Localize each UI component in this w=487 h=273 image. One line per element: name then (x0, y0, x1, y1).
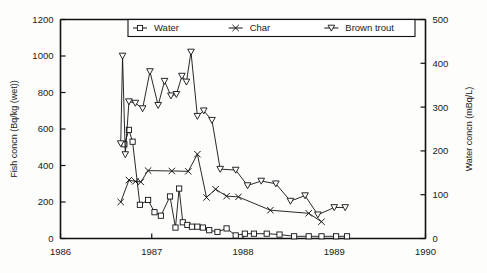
marker-triangle (155, 102, 162, 108)
marker-square (233, 233, 238, 238)
x-tick-label: 1989 (324, 246, 345, 257)
y-tick-label: 400 (38, 160, 54, 171)
line-chart-svg: 020040060080010001200 0100200300400500 1… (0, 0, 487, 273)
legend-label: Brown trout (345, 22, 394, 33)
series-brown-trout (117, 49, 348, 218)
marker-x (203, 194, 209, 200)
y-tick-label: 600 (38, 123, 54, 134)
marker-square (264, 231, 269, 236)
marker-triangle (244, 183, 251, 189)
right-axis: 0100200300400500 (421, 14, 449, 244)
chart-figure: 020040060080010001200 0100200300400500 1… (0, 0, 487, 273)
marker-square (333, 234, 338, 239)
marker-square (319, 234, 324, 239)
marker-square (277, 232, 282, 237)
x-tick-label: 1988 (232, 246, 253, 257)
marker-square (251, 231, 256, 236)
series-char (118, 151, 325, 225)
marker-square (189, 224, 194, 229)
y2-tick-label: 100 (433, 189, 449, 200)
y-tick-label: 1000 (32, 50, 53, 61)
marker-square (177, 186, 182, 191)
marker-square (224, 226, 229, 231)
y2-tick-label: 200 (433, 145, 449, 156)
y-tick-label: 800 (38, 87, 54, 98)
marker-square (146, 197, 151, 202)
marker-triangle (302, 193, 309, 199)
marker-triangle (183, 79, 190, 85)
marker-square (344, 234, 349, 239)
y2-tick-label: 0 (433, 233, 438, 244)
marker-square (158, 213, 163, 218)
y2-tick-label: 500 (433, 14, 449, 25)
series-path (124, 130, 347, 236)
series-water (122, 127, 350, 239)
series-layer (117, 49, 349, 239)
marker-square (292, 234, 297, 239)
y-tick-label: 200 (38, 196, 54, 207)
marker-x (212, 186, 218, 192)
marker-square (306, 234, 311, 239)
marker-triangle (194, 113, 201, 119)
y2-axis-title: Water concn (mBq/L) (464, 87, 474, 172)
marker-triangle (287, 198, 294, 204)
series-path (121, 52, 345, 215)
marker-triangle (139, 106, 146, 112)
marker-square (200, 225, 205, 230)
marker-square (137, 25, 142, 30)
y-tick-label: 0 (48, 233, 53, 244)
marker-square (207, 228, 212, 233)
x-tick-label: 1987 (141, 246, 162, 257)
marker-square (137, 202, 142, 207)
marker-square (173, 225, 178, 230)
series-path (121, 154, 322, 222)
marker-square (215, 229, 220, 234)
marker-x (318, 219, 324, 225)
y-axis-title: Fish concn (Bq/kg (wet)) (9, 80, 19, 178)
marker-square (130, 139, 135, 144)
marker-square (152, 210, 157, 215)
marker-triangle (315, 212, 322, 218)
marker-triangle (209, 117, 216, 123)
marker-triangle (161, 78, 168, 84)
marker-x (118, 199, 124, 205)
legend-label: Char (250, 22, 271, 33)
marker-triangle (147, 69, 154, 75)
marker-triangle (188, 49, 195, 55)
x-tick-label: 1990 (415, 246, 436, 257)
marker-square (167, 194, 172, 199)
plot-frame (61, 20, 426, 239)
marker-square (242, 231, 247, 236)
marker-x (194, 151, 200, 157)
chart-legend: WaterCharBrown trout (128, 20, 415, 37)
y2-tick-label: 300 (433, 102, 449, 113)
marker-triangle (122, 152, 129, 158)
marker-square (195, 224, 200, 229)
y-tick-label: 1200 (32, 14, 53, 25)
marker-triangle (168, 93, 175, 99)
y2-tick-label: 400 (433, 58, 449, 69)
marker-triangle (119, 53, 126, 59)
bottom-axis: 19861987198819891990 (50, 234, 436, 257)
legend-label: Water (154, 22, 179, 33)
x-tick-label: 1986 (50, 246, 71, 257)
